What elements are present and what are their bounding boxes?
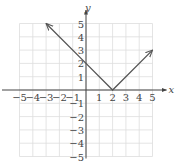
y-tick-label: −4 bbox=[69, 138, 84, 149]
x-tick-label: 2 bbox=[109, 92, 115, 103]
y-tick-label: −3 bbox=[69, 125, 84, 136]
y-tick-label: 1 bbox=[78, 72, 84, 83]
y-tick-label: 3 bbox=[78, 45, 84, 56]
axes: xy bbox=[2, 2, 175, 159]
x-tick-label: 5 bbox=[149, 92, 155, 103]
x-tick-label: 4 bbox=[136, 92, 142, 103]
x-tick-label: 3 bbox=[123, 92, 129, 103]
y-axis-label: y bbox=[84, 2, 91, 13]
y-tick-label: −1 bbox=[69, 98, 84, 109]
y-tick-label: 4 bbox=[78, 32, 84, 43]
x-tick-label: 1 bbox=[96, 92, 102, 103]
y-tick-label: −5 bbox=[69, 152, 84, 163]
y-tick-label: 5 bbox=[78, 19, 84, 30]
y-tick-label: −2 bbox=[69, 112, 84, 123]
x-axis-label: x bbox=[169, 84, 175, 95]
coordinate-plane: xy −5−4−3−2−11234554321−1−2−3−4−5 bbox=[0, 0, 179, 162]
